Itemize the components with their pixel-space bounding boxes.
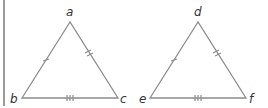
vertex-label-e: e <box>139 92 146 106</box>
triangle-def: d e f <box>139 5 255 106</box>
triangle-abc: a b c <box>10 5 127 106</box>
vertex-label-c: c <box>120 92 127 106</box>
vertex-label-d: d <box>194 5 202 19</box>
triangle-abc-outline <box>22 22 118 98</box>
congruent-triangles-diagram: a b c d e f <box>0 0 268 108</box>
vertex-label-f: f <box>249 92 255 106</box>
vertex-label-b: b <box>10 92 18 106</box>
diagram-svg: a b c d e f <box>0 0 268 108</box>
vertex-label-a: a <box>66 5 73 19</box>
triangle-def-outline <box>150 22 246 98</box>
